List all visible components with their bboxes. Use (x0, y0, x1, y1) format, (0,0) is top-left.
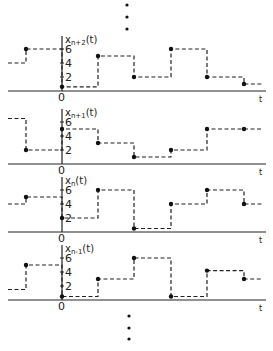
sample-point (169, 47, 173, 51)
ellipsis-top-dot (125, 3, 128, 6)
step-signal-path (8, 49, 262, 87)
sample-point (96, 277, 100, 281)
time-axis-label: t (259, 168, 262, 177)
sample-point (242, 82, 246, 86)
sample-point (205, 75, 209, 79)
sample-point (96, 54, 100, 58)
step-signal-path (8, 190, 262, 229)
sample-point (96, 188, 100, 192)
origin-label: 0 (58, 164, 65, 177)
sample-point (132, 155, 136, 159)
ellipsis-bottom-dot (127, 326, 130, 329)
y-tick-label: 4 (65, 57, 72, 70)
origin-label: 0 (58, 91, 65, 104)
sample-point (132, 75, 136, 79)
origin-label: 0 (58, 300, 65, 313)
y-tick-label: 2 (65, 144, 72, 157)
sample-point (24, 47, 28, 51)
sample-point (24, 195, 28, 199)
y-tick-label: 2 (65, 71, 72, 84)
origin-label: 0 (58, 232, 65, 245)
ellipsis-top-dot (125, 15, 128, 18)
sample-point (205, 268, 209, 272)
sample-point (169, 148, 173, 152)
sample-point (242, 127, 246, 131)
time-axis-label: t (259, 236, 262, 245)
y-tick-label: 2 (65, 280, 72, 293)
y-tick-label: 4 (65, 266, 72, 279)
sample-point (169, 202, 173, 206)
y-tick-label: 4 (65, 130, 72, 143)
ellipsis-bottom-dot (127, 314, 130, 317)
y-tick-label: 4 (65, 198, 72, 211)
sample-point (60, 216, 64, 220)
sample-point (132, 226, 136, 230)
sample-point (242, 202, 246, 206)
sample-point (169, 294, 173, 298)
sample-point (24, 148, 28, 152)
ellipsis-top-dot (125, 27, 128, 30)
sample-point (60, 127, 64, 131)
stacked-step-signals-diagram: 2460txn+2(t)2460txn+1(t)2460txn(t)2460tx… (0, 0, 273, 351)
time-axis-label: t (259, 304, 262, 313)
sample-point (132, 256, 136, 260)
sample-point (24, 263, 28, 267)
sample-point (96, 141, 100, 145)
time-axis-label: t (259, 95, 262, 104)
sample-point (60, 85, 64, 89)
ellipsis-bottom-dot (127, 337, 130, 340)
step-signal-path (8, 258, 262, 297)
step-signal-path (8, 119, 262, 158)
sample-point (242, 277, 246, 281)
signal-figure: 2460txn+2(t)2460txn+1(t)2460txn(t)2460tx… (0, 0, 273, 351)
sample-point (205, 127, 209, 131)
sample-point (60, 294, 64, 298)
sample-point (205, 188, 209, 192)
